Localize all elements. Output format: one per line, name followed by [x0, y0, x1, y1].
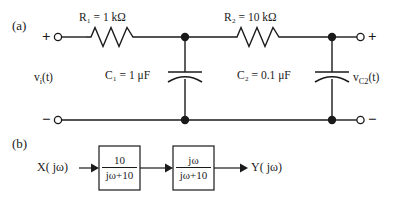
input-minus-terminal-node: [54, 116, 61, 123]
resistor-r1-symbol: [86, 28, 139, 47]
transfer-block-1-fraction-bar: [102, 167, 137, 168]
arrow-block1-to-block2-head: [165, 164, 173, 173]
input-plus-terminal-node: [54, 33, 61, 40]
input-source-arg: (t): [42, 71, 53, 83]
transfer-block-2-expression: jω jω+10: [176, 154, 211, 182]
output-voltage-subscript: C2: [359, 77, 369, 86]
transfer-block-2-numerator: jω: [176, 154, 211, 166]
capacitor-c1-label: C₁ = 1 μF: [105, 70, 150, 82]
panel-a-tag: (a): [12, 19, 26, 32]
capacitor-c2-label: C₂ = 0.1 μF: [237, 70, 291, 82]
arrow-block2-to-output-head: [240, 164, 248, 173]
output-plus-terminal-node: [357, 33, 364, 40]
output-voltage-arg: (t): [368, 71, 379, 83]
resistor-r1-label: R₁ = 1 kΩ: [79, 12, 126, 24]
output-minus-terminal-node: [357, 116, 364, 123]
resistor-r2-label: R₂ = 10 kΩ: [224, 12, 277, 24]
block-diagram-input-label: X( jω): [37, 161, 68, 173]
block-diagram-output-label: Y( jω): [251, 161, 282, 173]
output-voltage-label: vC2(t): [353, 72, 379, 87]
transfer-block-1-expression: 10 jω+10: [102, 154, 137, 182]
arrow-input-to-block1-head: [91, 164, 99, 173]
transfer-block-2-denominator: jω+10: [176, 169, 211, 181]
figure-container: (a) (b) + − + − vi(t) vC2(t) R₁ = 1 kΩ R…: [0, 0, 394, 201]
output-minus-sign: −: [368, 112, 377, 127]
panel-b-tag: (b): [12, 137, 27, 150]
output-plus-sign: +: [368, 29, 377, 44]
transfer-block-2-fraction-bar: [176, 167, 211, 168]
transfer-block-1-denominator: jω+10: [102, 169, 137, 181]
circuit-schematic: [54, 28, 364, 125]
input-minus-sign: −: [42, 112, 51, 127]
input-plus-sign: +: [42, 29, 51, 44]
input-source-label: vi(t): [34, 72, 53, 87]
resistor-r2-symbol: [232, 28, 285, 47]
transfer-block-1-numerator: 10: [102, 154, 137, 166]
